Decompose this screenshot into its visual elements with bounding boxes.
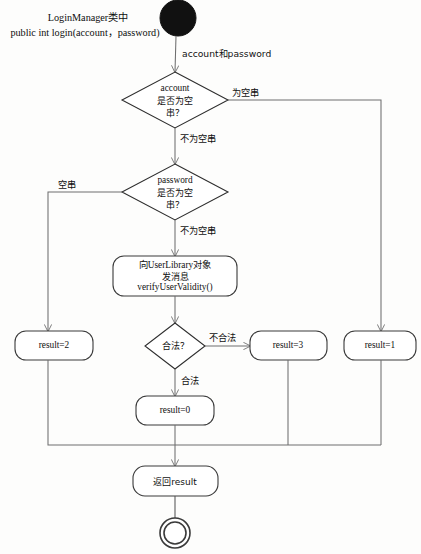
activity-verify-line-3: verifyUserValidity(): [137, 282, 212, 293]
edge-label-valid-no: 不合法: [209, 332, 236, 343]
header-line-2: public int login(account，password): [10, 27, 159, 39]
return-result-label: 返回result: [153, 476, 197, 487]
initial-state-node[interactable]: [160, 0, 196, 36]
decision-password-empty[interactable]: password 是否为空 串？: [122, 164, 228, 220]
edge-label-account-not-empty: 不为空串: [180, 133, 216, 144]
decision-is-valid[interactable]: 合法？: [145, 323, 205, 369]
activity-result2[interactable]: result=2: [15, 331, 93, 360]
edge-label-password-not-empty: 不为空串: [180, 225, 216, 236]
final-state-node[interactable]: [160, 518, 190, 548]
edge-password-empty-to-result2: [48, 192, 122, 331]
activity-result0[interactable]: result=0: [136, 396, 214, 425]
activity-verify-user-validity[interactable]: 向UserLibrary对象 发消息 verifyUserValidity(): [113, 256, 237, 296]
edge-initial-to-account: [175, 36, 176, 72]
edge-label-password-empty: 空串: [58, 179, 76, 190]
activity-result1[interactable]: result=1: [344, 331, 416, 360]
result3-label: result=3: [273, 340, 304, 350]
edge-account-empty-to-result1: [228, 100, 381, 331]
decision-password-line-3: 串？: [166, 200, 184, 210]
decision-valid-label: 合法？: [162, 340, 189, 351]
decision-account-empty[interactable]: account 是否为空 串？: [122, 72, 228, 128]
decision-account-line-2: 是否为空: [157, 95, 193, 106]
result1-label: result=1: [365, 340, 396, 350]
flowchart-svg: LoginManager类中 public int login(account，…: [0, 0, 421, 554]
activity-result3[interactable]: result=3: [250, 331, 327, 360]
decision-password-line-1: password: [157, 175, 192, 185]
edge-result2-merge: [48, 360, 381, 445]
activity-diagram-canvas: LoginManager类中 public int login(account，…: [0, 0, 421, 554]
edge-label-start-to-account: account和password: [182, 48, 271, 59]
header-annotation: LoginManager类中 public int login(account，…: [10, 11, 159, 39]
header-line-1: LoginManager类中: [48, 11, 129, 23]
edge-label-valid-yes: 合法: [181, 375, 199, 386]
result2-label: result=2: [39, 340, 70, 350]
activity-return-result[interactable]: 返回result: [133, 466, 218, 496]
result0-label: result=0: [160, 405, 191, 415]
decision-account-line-3: 串？: [166, 108, 184, 118]
decision-password-line-2: 是否为空: [157, 187, 193, 198]
final-inner-circle: [164, 522, 186, 544]
decision-account-line-1: account: [161, 83, 190, 93]
activity-verify-line-2: 发消息: [162, 271, 189, 282]
edge-label-account-empty: 为空串: [232, 87, 259, 98]
activity-verify-line-1: 向UserLibrary对象: [139, 259, 211, 270]
